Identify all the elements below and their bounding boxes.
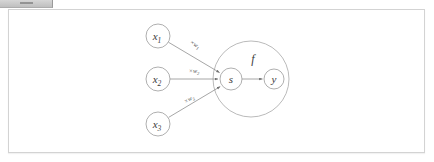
toolbar-fragment[interactable] — [0, 0, 53, 8]
document-page-frame — [8, 9, 425, 153]
toolbar-fragment-mark — [20, 2, 33, 4]
screenshot-root: x1 x2 x3 s y f ×w1 ×w2 ×w3 — [0, 0, 434, 162]
